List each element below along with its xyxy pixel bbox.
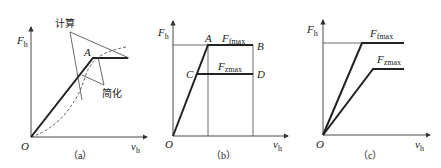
fmax-curve bbox=[323, 43, 404, 135]
y-axis-label: Fh bbox=[157, 26, 169, 41]
origin-label: O bbox=[316, 138, 324, 150]
x-axis-label: vh bbox=[131, 140, 140, 155]
caption-c: （c） bbox=[358, 150, 382, 161]
panel-c: Fh O vh Ffmax Fzmax （c） bbox=[306, 20, 430, 161]
fmax-label: Ffmax bbox=[221, 32, 245, 46]
loading-line bbox=[173, 45, 253, 136]
simplified-annotation: 简化 bbox=[102, 87, 122, 99]
point-a-label: A bbox=[83, 46, 91, 58]
point-a-label: A bbox=[204, 32, 212, 44]
y-axis-label: Fh bbox=[306, 23, 318, 38]
origin-label: O bbox=[165, 138, 173, 150]
zmax-label: Fzmax bbox=[217, 60, 242, 74]
origin-label: O bbox=[21, 140, 29, 152]
caption-b: （b） bbox=[211, 150, 236, 161]
panel-a: Fh O vh A 计算 简化 （a） bbox=[16, 17, 147, 161]
simplified-pointer bbox=[82, 57, 104, 85]
point-d-label: D bbox=[256, 68, 265, 80]
caption-a: （a） bbox=[68, 150, 92, 161]
x-axis-label: vh bbox=[415, 138, 424, 153]
panel-b: Fh O vh A B C D Ffmax Fzmax （b） bbox=[157, 21, 288, 161]
x-axis-label: vh bbox=[273, 138, 282, 153]
zmax-label: Fzmax bbox=[376, 53, 401, 67]
point-c-label: C bbox=[186, 68, 194, 80]
fmax-label: Ffmax bbox=[369, 27, 393, 41]
calc-annotation: 计算 bbox=[55, 17, 75, 29]
zmax-curve bbox=[323, 69, 404, 135]
figure-root: Fh O vh A 计算 简化 （a） Fh O vh A B C D Ffma… bbox=[0, 0, 441, 168]
point-b-label: B bbox=[257, 40, 264, 52]
y-axis-label: Fh bbox=[16, 34, 28, 49]
